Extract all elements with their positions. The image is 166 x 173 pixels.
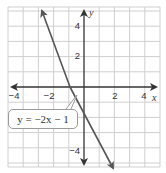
x-tick-label: −2 <box>44 90 55 101</box>
y-tick-label: 4 <box>75 20 80 31</box>
x-tick-label: −4 <box>9 90 20 101</box>
equation-callout: y = −2x − 1 <box>8 109 78 129</box>
y-axis-label: y <box>88 7 94 18</box>
coordinate-graph: −4 −2 2 4 x 4 2 −4 y <box>0 0 166 173</box>
y-tick-label: −4 <box>69 145 80 156</box>
x-tick-label: 4 <box>141 90 146 101</box>
axes <box>12 11 156 164</box>
y-tick-label: 2 <box>75 50 80 61</box>
x-axis-label: x <box>151 92 157 103</box>
x-tick-label: 2 <box>112 90 117 101</box>
